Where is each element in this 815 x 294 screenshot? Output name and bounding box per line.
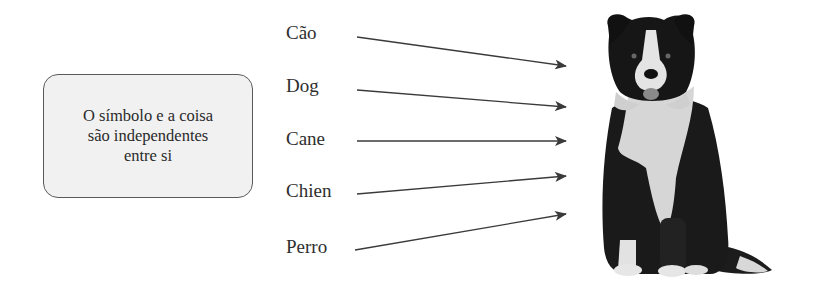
arrow-perro [355, 214, 566, 250]
arrow-dog [357, 90, 566, 107]
dog-eye-left [632, 54, 637, 59]
arrow-cao [357, 37, 566, 66]
arrow-chien [357, 176, 566, 194]
dog-nose [644, 69, 658, 79]
dog-tongue [643, 88, 659, 100]
dog-image [590, 8, 780, 280]
dog-eye-right [666, 54, 671, 59]
